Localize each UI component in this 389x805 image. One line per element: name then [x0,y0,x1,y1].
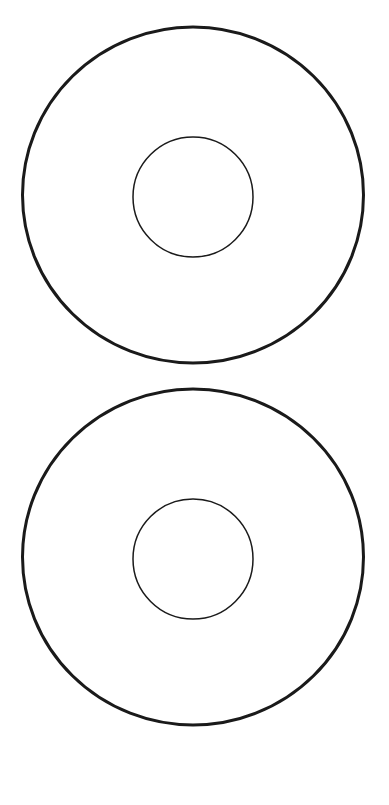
disc-template-canvas [0,0,389,805]
background [0,0,389,805]
